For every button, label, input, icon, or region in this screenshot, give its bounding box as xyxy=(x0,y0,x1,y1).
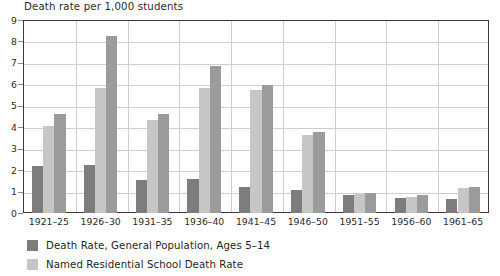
bar xyxy=(313,132,324,213)
bar-group xyxy=(334,20,386,213)
bar-group xyxy=(230,20,282,213)
x-axis-tick-label: 1951–55 xyxy=(334,216,386,227)
legend-swatch-icon xyxy=(27,259,38,270)
x-axis-tick-label: 1936–40 xyxy=(178,216,230,227)
bar xyxy=(365,193,376,213)
y-axis-tick-label: 1 xyxy=(0,187,17,196)
bar xyxy=(54,114,65,213)
bar xyxy=(43,126,54,213)
bar xyxy=(395,198,406,213)
chart-figure: Death rate per 1,000 students 0123456789… xyxy=(0,0,500,276)
x-axis-tick-label: 1931–35 xyxy=(127,216,179,227)
bar-group xyxy=(437,20,489,213)
y-axis-tick-label: 5 xyxy=(0,101,17,110)
y-axis-tick-label: 0 xyxy=(0,209,17,218)
y-axis-tick-label: 4 xyxy=(0,123,17,132)
bar xyxy=(158,114,169,213)
x-axis-tick-label: 1926–30 xyxy=(75,216,127,227)
bar xyxy=(239,187,250,213)
bar xyxy=(302,135,313,213)
bar-group xyxy=(282,20,334,213)
x-axis: 1921–251926–301931–351936–401941–451946–… xyxy=(23,216,489,230)
y-axis-tick-label: 8 xyxy=(0,37,17,46)
y-axis-tick-label: 2 xyxy=(0,166,17,175)
bar xyxy=(210,66,221,213)
bar-group xyxy=(23,20,75,213)
bar xyxy=(147,120,158,213)
bar xyxy=(199,88,210,213)
y-axis-tick-mark xyxy=(18,213,23,214)
legend-item: Named Residential School Death Rate xyxy=(27,255,467,274)
y-axis-tick-label: 7 xyxy=(0,58,17,67)
bar xyxy=(136,180,147,213)
bar-group xyxy=(385,20,437,213)
legend-item-label: Named Residential School Death Rate xyxy=(46,259,243,270)
bar xyxy=(262,85,273,213)
bar xyxy=(84,165,95,213)
y-axis-tick-label: 6 xyxy=(0,80,17,89)
bar xyxy=(354,194,365,213)
bar xyxy=(95,88,106,213)
bar xyxy=(446,199,457,213)
bar xyxy=(406,197,417,213)
legend-swatch-icon xyxy=(27,240,38,251)
bar-group xyxy=(75,20,127,213)
legend-item: Death Rate, General Population, Ages 5–1… xyxy=(27,236,467,255)
bar xyxy=(32,166,43,213)
bar xyxy=(469,187,480,213)
x-axis-tick-label: 1961–65 xyxy=(437,216,489,227)
x-axis-tick-label: 1941–45 xyxy=(230,216,282,227)
bar-group xyxy=(127,20,179,213)
bar xyxy=(458,188,469,213)
x-axis-tick-label: 1946–50 xyxy=(282,216,334,227)
legend-item-label: Death Rate, General Population, Ages 5–1… xyxy=(46,240,270,251)
chart-legend: Death Rate, General Population, Ages 5–1… xyxy=(27,236,467,274)
x-axis-tick-label: 1921–25 xyxy=(23,216,75,227)
bar xyxy=(250,90,261,213)
y-axis-tick-label: 9 xyxy=(0,16,17,25)
bar xyxy=(291,190,302,213)
bar-group xyxy=(178,20,230,213)
bar xyxy=(343,195,354,213)
y-axis-tick-label: 3 xyxy=(0,144,17,153)
bars-layer xyxy=(23,20,489,213)
bar xyxy=(417,195,428,213)
bar xyxy=(106,36,117,213)
chart-title: Death rate per 1,000 students xyxy=(24,1,183,12)
x-axis-tick-label: 1956–60 xyxy=(385,216,437,227)
bar xyxy=(187,179,198,213)
